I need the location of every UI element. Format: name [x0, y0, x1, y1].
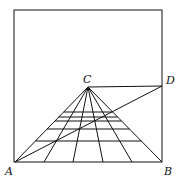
label-b: B: [163, 165, 172, 178]
ray: [15, 87, 88, 162]
perspective-diagram: C D A B: [0, 0, 182, 182]
label-c: C: [83, 73, 92, 86]
label-a: A: [4, 165, 13, 178]
line-cd: [88, 86, 162, 87]
ray: [73, 87, 88, 162]
label-d: D: [165, 74, 175, 87]
diagonal-ad: [15, 86, 162, 162]
ray: [88, 87, 103, 162]
ray: [44, 87, 88, 162]
